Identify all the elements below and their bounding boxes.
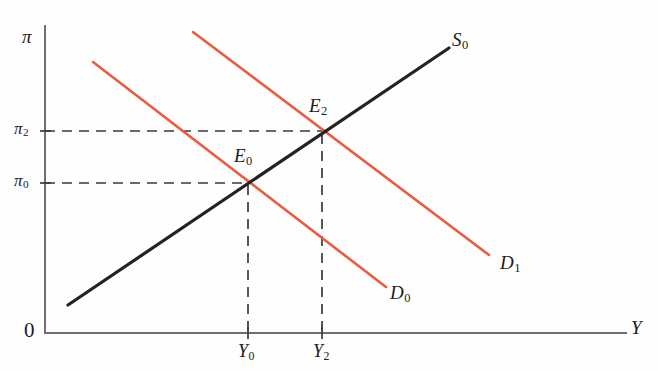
- y-tick-label-pi2: π2: [14, 120, 29, 139]
- x-tick-label-y0: Y0: [238, 342, 254, 362]
- curve-label-s0: S0: [452, 30, 468, 51]
- y-axis-label: π: [22, 27, 32, 46]
- equilibrium-label-e0: E0: [234, 146, 252, 167]
- plot-canvas: [0, 0, 658, 371]
- economics-supply-demand-figure: π Y 0 π2 π0 Y0 Y2 S0 D0 D1 E0 E2: [0, 0, 658, 371]
- demand-curve-d0: [93, 62, 386, 287]
- origin-label: 0: [24, 320, 35, 341]
- x-axis-label: Y: [631, 318, 642, 337]
- curve-label-d1: D1: [500, 253, 521, 274]
- demand-curve-d1: [193, 32, 489, 255]
- x-tick-label-y2: Y2: [313, 342, 329, 362]
- curve-label-d0: D0: [390, 283, 411, 304]
- equilibrium-label-e2: E2: [309, 96, 327, 117]
- y-tick-label-pi0: π0: [14, 172, 29, 191]
